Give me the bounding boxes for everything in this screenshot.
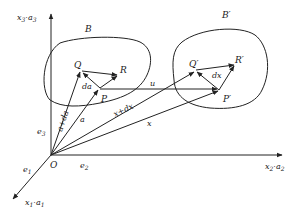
vector-da-label: da [82,82,92,91]
region-b-prime-label: B′ [221,10,231,20]
axis-x1-label: x1·a1 [25,198,45,208]
vector-u-label: u [150,79,155,88]
basis-e1-label: e1 [23,165,32,175]
vector-x-plus-dx-label: x+dx [112,102,135,119]
vector-a-label: a [80,115,85,124]
point-p-label: P [100,94,108,104]
vector-dx-label: dx [212,71,222,80]
point-q-prime-label: Q′ [189,59,198,69]
origin-label: O [50,160,58,170]
region-b-outline [44,37,151,106]
point-r-prime-label: R′ [234,55,244,65]
region-b-label: B [84,24,92,34]
basis-e3-label: e3 [37,127,46,137]
vector-pr [100,76,117,88]
deformation-diagram: x3·a3 x2·a2 x1·a1 e3 e2 e1 O B B′ Q R P … [0,0,292,215]
region-b-prime-outline [173,29,268,108]
vector-x [51,91,218,155]
vector-qr-prime [196,65,234,70]
vector-a-plus-da-label: a+da [55,109,70,132]
basis-e2-label: e2 [80,161,89,171]
point-r-label: R [119,65,127,75]
axes [13,14,282,199]
point-p-prime-label: P′ [222,94,231,104]
axis-x1 [13,155,51,199]
axis-x3-label: x3·a3 [17,13,37,23]
vector-qr [82,71,117,75]
vector-x-label: x [147,119,152,128]
axis-x2-label: x2·a2 [265,162,285,172]
point-q-label: Q [74,60,82,70]
